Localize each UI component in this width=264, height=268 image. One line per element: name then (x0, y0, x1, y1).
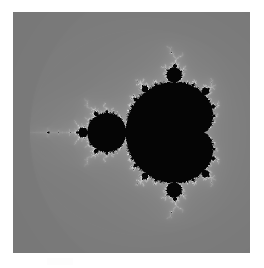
mandelbrot-figure (13, 12, 250, 253)
caption-artifact (47, 258, 73, 265)
mandelbrot-canvas (13, 12, 250, 253)
page-root (0, 0, 264, 268)
